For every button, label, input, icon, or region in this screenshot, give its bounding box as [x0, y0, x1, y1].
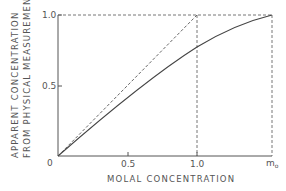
- x-tick-label-1.0: 1.0: [190, 159, 205, 169]
- x-axis-title: MOLAL CONCENTRATION: [107, 174, 235, 184]
- y-tick-label-1.0: 1.0: [42, 10, 57, 20]
- x-tick-label-m0: mo: [266, 158, 279, 169]
- apparent-curve: [58, 15, 272, 156]
- origin-label: 0: [47, 158, 53, 168]
- y-axis-title-line1: APPARENT CONCENTRATION: [10, 11, 20, 158]
- ideal-line: [58, 15, 197, 156]
- chart: 1.0 0.5 0 0.5 1.0 mo MOLAL CONCENTRATION…: [0, 0, 286, 191]
- y-axis-title-line2: FROM PHYSICAL MEASUREMENT: [22, 0, 32, 158]
- x-tick-label-0.5: 0.5: [121, 159, 135, 169]
- y-tick-label-0.5: 0.5: [42, 81, 56, 91]
